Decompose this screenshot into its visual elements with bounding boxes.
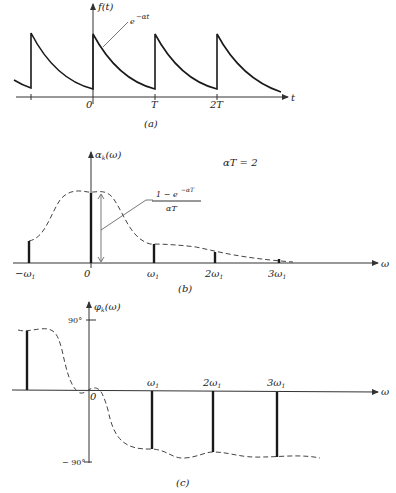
tick-0-b: 0 bbox=[84, 268, 91, 279]
tick-0: 0 bbox=[86, 99, 93, 110]
tick-2T: 2T bbox=[209, 99, 224, 110]
tick-0-c: 0 bbox=[90, 391, 97, 402]
tick-3w1-b: 3ω1 bbox=[268, 268, 286, 280]
figure: e −αt f(t) t 0 T 2T (a) 1 − e −αT αT αT … bbox=[0, 0, 396, 493]
omega-label-b: ω bbox=[381, 258, 389, 269]
t-axis-label: t bbox=[291, 92, 296, 103]
tick-2w1-b: 2ω1 bbox=[204, 268, 223, 280]
amp-axis-label: αk(ω) bbox=[95, 149, 121, 161]
panel-b: 1 − e −αT αT αT = 2 αk(ω) ω −ω1 0 ω1 2ω1… bbox=[13, 149, 389, 294]
label-90: 90° bbox=[68, 316, 82, 325]
caption-c: (c) bbox=[176, 477, 190, 488]
omega-axis-c bbox=[12, 390, 378, 392]
amplitude-envelope bbox=[29, 191, 293, 262]
tick-neg-w1: −ω1 bbox=[15, 268, 35, 280]
curve-label: e bbox=[130, 17, 135, 26]
omega-label-c: ω bbox=[381, 386, 389, 397]
tick-T: T bbox=[151, 99, 159, 110]
panel-a: e −αt f(t) t 0 T 2T (a) bbox=[14, 1, 296, 129]
tick-2w1-c: 2ω1 bbox=[202, 377, 221, 389]
panel-c: φk(ω) 90° − 90° ω 0 ω1 2ω1 3ω1 (c) bbox=[12, 301, 389, 488]
label-neg90: − 90° bbox=[62, 458, 85, 467]
tick-w1-c: ω1 bbox=[147, 377, 159, 389]
phase-envelope bbox=[18, 329, 320, 458]
svg-text:−αt: −αt bbox=[136, 13, 150, 21]
pulse-train bbox=[14, 33, 281, 92]
svg-text:−αT: −αT bbox=[181, 186, 195, 193]
f-axis-label: f(t) bbox=[97, 1, 114, 12]
curve-pointer bbox=[103, 22, 128, 47]
param-label: αT = 2 bbox=[223, 157, 258, 168]
tick-3w1-c: 3ω1 bbox=[267, 377, 285, 389]
phase-axis-label: φk(ω) bbox=[94, 301, 121, 313]
annotation-pointer bbox=[101, 200, 146, 230]
caption-a: (a) bbox=[144, 118, 158, 129]
annotation-denominator: αT bbox=[166, 204, 177, 213]
annotation-numerator: 1 − e bbox=[156, 190, 178, 199]
caption-b: (b) bbox=[178, 283, 192, 294]
tick-w1-b: ω1 bbox=[147, 268, 159, 280]
